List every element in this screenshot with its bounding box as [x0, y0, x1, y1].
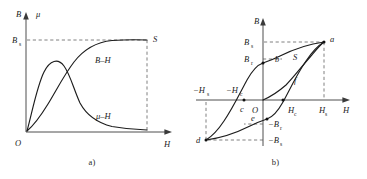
panel-b-bs-tick-label: B s — [244, 37, 253, 49]
panel-b-point-label-d: d — [196, 135, 201, 145]
panel-b-ascending-branch — [206, 42, 324, 140]
panel-a-xlabel-h: H — [163, 139, 171, 149]
panel-b-br-subscript: r — [251, 60, 253, 66]
panel-b-neg-hc-subscript: c — [240, 91, 243, 97]
panel-b-virgin-curve — [263, 42, 324, 100]
point-marker-c — [243, 99, 246, 102]
figure-panel-b: B H O B s B r −B r −B s H s H — [184, 0, 367, 179]
panel-b-y-axis — [260, 18, 266, 146]
panel-a-bs-subscript: s — [19, 41, 21, 47]
panel-b-point-label-e: e — [251, 113, 255, 123]
point-marker-a — [323, 41, 326, 44]
panel-b-neg-hs-tick-label: −H s — [193, 85, 209, 97]
panel-b-bs-base: B — [244, 37, 249, 47]
panel-b-point-label-f: f — [294, 75, 298, 85]
panel-b-neg-hc-base: −H — [226, 85, 239, 95]
point-marker-d — [205, 139, 208, 142]
panel-b-x-axis — [196, 97, 350, 103]
panel-a-saturation-point-label: S — [153, 34, 158, 44]
panel-b-hs-subscript: s — [325, 111, 327, 117]
panel-b-point-label-s: S — [293, 52, 298, 62]
panel-b-hc-subscript: c — [294, 111, 297, 117]
panel-a-bs-tick-label: B s — [12, 35, 21, 47]
panel-a-muh-curve — [27, 61, 147, 131]
point-marker-b — [262, 62, 265, 65]
panel-b-hc-tick-label: H c — [287, 105, 297, 117]
panel-b-br-tick-label: B r — [244, 54, 253, 66]
figure-panel-a: B μ H O B s B–H μ–H S a) — [0, 0, 184, 179]
panel-b-neg-hs-base: −H — [193, 85, 206, 95]
panel-b-point-label-a: a — [330, 34, 334, 44]
panel-b-point-label-c: c — [240, 104, 244, 114]
panel-a-bh-label: B–H — [95, 55, 111, 65]
panel-b-point-label-b: b — [275, 54, 279, 64]
panel-a-saturation-guides — [27, 40, 147, 131]
panel-a-ylabel-mu: μ — [35, 9, 40, 19]
panel-b-hs-tick-label: H s — [318, 105, 327, 117]
panel-a-ylabel-b: B — [16, 9, 21, 19]
panel-b-caption: b) — [184, 157, 367, 167]
panel-b-neg-br-base: −B — [268, 119, 279, 129]
panel-b-xlabel-h: H — [342, 105, 350, 115]
panel-b-neg-hs-subscript: s — [207, 91, 209, 97]
panel-b-guides — [206, 42, 324, 140]
panel-b-neg-br-tick-label: −B r — [268, 119, 282, 131]
panel-b-descending-branch — [206, 42, 324, 140]
point-marker-f — [282, 99, 285, 102]
panel-a-bs-base: B — [12, 35, 17, 45]
panel-b-neg-bs-base: −B — [268, 135, 279, 145]
panel-b-neg-br-subscript: r — [280, 125, 282, 131]
panel-a-x-axis — [26, 129, 172, 135]
panel-b-bs-subscript: s — [251, 43, 253, 49]
panel-b-neg-hc-tick-label: −H c — [226, 85, 243, 97]
panel-b-neg-bs-subscript: s — [280, 141, 282, 147]
panel-a-origin-label: O — [15, 138, 21, 148]
panel-b-ylabel-b: B — [254, 16, 259, 26]
panel-b-br-base: B — [244, 54, 249, 64]
panel-a-bh-curve — [27, 40, 147, 131]
panel-b-neg-bs-tick-label: −B s — [268, 135, 282, 147]
panel-a-muh-label: μ–H — [95, 111, 112, 121]
panel-a-y-axis — [23, 12, 29, 132]
panel-a-caption: a) — [0, 157, 184, 167]
